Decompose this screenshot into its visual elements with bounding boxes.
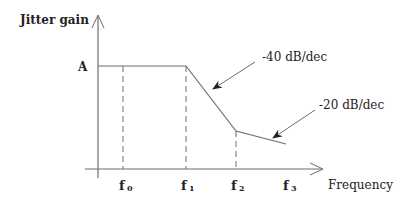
svg-text:f: f	[283, 178, 290, 193]
frequency-guides	[123, 66, 236, 169]
tick-f3: f 3	[283, 178, 297, 193]
svg-text:f: f	[181, 178, 188, 193]
x-axis	[85, 163, 323, 175]
svg-text:3: 3	[291, 183, 297, 193]
tick-f0: f 0	[119, 178, 133, 193]
x-axis-label: Frequency	[328, 178, 393, 192]
slope-40-arrow-icon	[213, 62, 255, 89]
svg-text:f: f	[231, 178, 238, 193]
svg-text:2: 2	[239, 183, 245, 193]
level-label-a: A	[77, 60, 88, 74]
y-axis-label: Jitter gain	[19, 13, 89, 27]
y-axis	[92, 15, 104, 178]
slope-20-label: -20 dB/dec	[319, 98, 384, 112]
gain-curve	[98, 66, 286, 144]
svg-text:0: 0	[127, 183, 133, 193]
slope-40-label: -40 dB/dec	[262, 50, 327, 64]
slope-20-arrow-icon	[273, 110, 315, 138]
tick-f1: f 1	[181, 178, 195, 193]
svg-text:1: 1	[189, 183, 195, 193]
svg-text:f: f	[119, 178, 126, 193]
tick-f2: f 2	[231, 178, 245, 193]
jitter-gain-diagram: Jitter gain A -40 dB/dec -20 dB/dec Freq…	[0, 0, 409, 199]
